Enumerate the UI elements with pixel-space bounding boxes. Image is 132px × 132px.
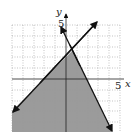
y-axis-label: y xyxy=(56,6,62,17)
graph xyxy=(0,0,132,132)
shaded-region xyxy=(12,50,112,132)
x-tick-label: 5 xyxy=(115,80,121,91)
x-axis-label: x xyxy=(125,78,131,89)
y-tick-label: 5 xyxy=(58,18,64,29)
